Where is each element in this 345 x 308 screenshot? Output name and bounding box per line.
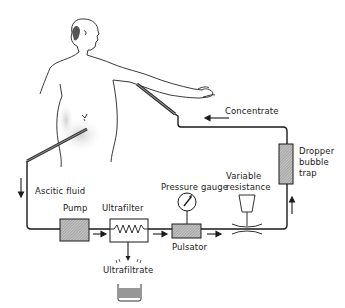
dropper-bubble-trap <box>279 144 293 184</box>
patient-figure <box>40 19 215 167</box>
label-pulsator: Pulsator <box>172 242 207 252</box>
label-ascitic-fluid: Ascitic fluid <box>35 186 85 196</box>
circuit-diagram <box>0 0 345 308</box>
pressure-gauge <box>178 193 196 224</box>
ultrafilter-box <box>110 219 148 263</box>
label-ultrafilter: Ultrafilter <box>102 203 144 213</box>
label-dropper-3: trap <box>299 168 317 178</box>
label-dropper-1: Dropper <box>299 146 334 156</box>
pump-box <box>60 219 89 241</box>
arm-catheter <box>137 84 175 114</box>
ultrafiltrate-beaker <box>118 284 141 301</box>
label-variable-2: resistance <box>226 182 271 192</box>
label-pressure-gauge: Pressure gauge <box>161 182 228 192</box>
variable-resistance <box>232 195 262 234</box>
pulsator-box <box>172 224 201 238</box>
label-pump: Pump <box>63 203 87 213</box>
label-variable-1: Variable <box>226 171 261 181</box>
label-dropper-2: bubble <box>299 157 329 167</box>
label-concentrate: Concentrate <box>225 106 279 116</box>
label-ultrafiltrate: Ultrafiltrate <box>103 265 153 275</box>
